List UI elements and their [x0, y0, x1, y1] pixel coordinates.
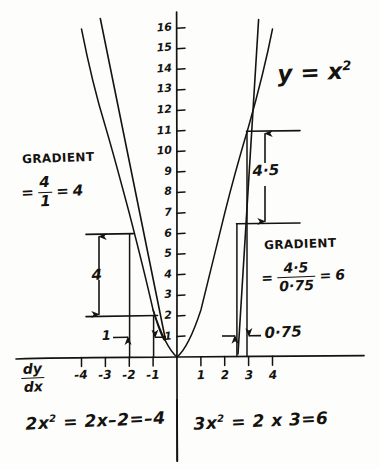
- y-tick-label-7: 7: [155, 206, 173, 218]
- y-tick-label-6: 6: [155, 227, 173, 239]
- bottom-right-result: 6: [316, 408, 329, 429]
- right-gradient-result: 6: [335, 268, 345, 282]
- bottom-left-result: –4: [144, 408, 166, 429]
- bottom-left-exponent: 2: [49, 413, 57, 424]
- right-gradient-equals2: =: [319, 268, 331, 282]
- y-tick-label-12: 12: [155, 103, 173, 115]
- left-gradient-numerator: 4: [37, 175, 52, 193]
- curve-label: y = x2: [277, 59, 352, 86]
- left-rise-label: 4: [91, 268, 102, 283]
- y-tick-label-5: 5: [155, 247, 173, 259]
- x-tick-label-3: 3: [239, 368, 260, 381]
- dydx-numerator: dy: [21, 361, 45, 379]
- y-tick-label-13: 13: [155, 82, 173, 94]
- y-tick-label-14: 14: [155, 62, 173, 74]
- dydx-axis-label: dy dx: [21, 361, 46, 394]
- x-tick-label-4: 4: [263, 368, 284, 381]
- y-tick-label-4: 4: [155, 268, 173, 280]
- right-gradient-expression: = 4·5 0·75 = 6: [261, 258, 346, 294]
- y-axis-ticks: [177, 28, 185, 337]
- bottom-left-lhs: 2x: [25, 413, 50, 434]
- right-lower-horizontal: [237, 223, 301, 224]
- y-tick-label-9: 9: [155, 165, 173, 177]
- left-gradient-expression: = 4 1 = 4: [20, 173, 83, 210]
- x-tick-label-2: 2: [215, 368, 236, 381]
- right-rise-label: 4·5: [252, 163, 279, 179]
- right-upper-horizontal: [247, 131, 301, 132]
- y-tick-label-2: 2: [155, 309, 173, 321]
- right-gradient-equals: =: [261, 271, 273, 285]
- right-gradient-title: GRADIENT: [264, 237, 337, 252]
- left-run-label: 1: [101, 329, 111, 342]
- left-gradient-fraction: 4 1: [37, 175, 53, 210]
- right-gradient-denominator: 0·75: [277, 276, 316, 293]
- right-run-label: 0·75: [264, 324, 302, 341]
- x-tick-label-neg1: -1: [143, 368, 164, 381]
- left-gradient-result: 4: [72, 183, 83, 198]
- y-tick-label-15: 15: [155, 41, 173, 53]
- y-tick-label-8: 8: [155, 185, 173, 197]
- bottom-left-equals2: =: [129, 408, 145, 429]
- bottom-right-middle: 2 x 3: [252, 409, 302, 431]
- bottom-left-equals1: =: [63, 411, 79, 432]
- y-tick-label-16: 16: [155, 21, 173, 33]
- left-upper-horizontal: [86, 234, 134, 235]
- x-axis: [16, 356, 364, 359]
- right-gradient-fraction: 4·5 0·75: [276, 260, 316, 294]
- handdrawn-graph-page: 16 15 14 13 12 11 10 9 8 7 6 5 4 3 2 1 -…: [0, 0, 379, 469]
- curve-label-text: y = x: [277, 58, 343, 87]
- parabola-curve: [82, 29, 166, 340]
- x-tick-label-neg3: -3: [95, 368, 116, 381]
- curve-label-exponent: 2: [342, 58, 352, 73]
- y-tick-label-11: 11: [155, 124, 173, 136]
- x-tick-label-1: 1: [191, 368, 212, 381]
- bottom-right-equals2: =: [301, 408, 317, 429]
- tangent-line-right: [238, 20, 259, 355]
- right-gradient-numerator: 4·5: [276, 260, 315, 278]
- parabola-curve-right: [177, 29, 273, 357]
- dydx-fraction: dy dx: [21, 361, 46, 394]
- left-gradient-title: GRADIENT: [22, 151, 95, 166]
- bottom-right-equals1: =: [231, 411, 247, 432]
- y-axis: [177, 12, 178, 461]
- dydx-denominator: dx: [21, 378, 45, 395]
- y-tick-label-10: 10: [155, 144, 173, 156]
- left-gradient-equals2: =: [56, 184, 69, 200]
- left-gradient-denominator: 1: [38, 192, 53, 209]
- left-gradient-equals: =: [21, 185, 34, 201]
- left-lower-horizontal: [86, 316, 158, 317]
- bottom-right-exponent: 2: [217, 413, 225, 424]
- x-tick-label-neg4: -4: [71, 368, 92, 381]
- bottom-left-middle: 2x–2: [84, 409, 130, 431]
- x-tick-label-neg2: -2: [119, 368, 140, 381]
- y-tick-label-3: 3: [155, 288, 173, 300]
- y-tick-label-1: 1: [155, 330, 173, 342]
- bottom-right-lhs: 3x: [193, 413, 218, 434]
